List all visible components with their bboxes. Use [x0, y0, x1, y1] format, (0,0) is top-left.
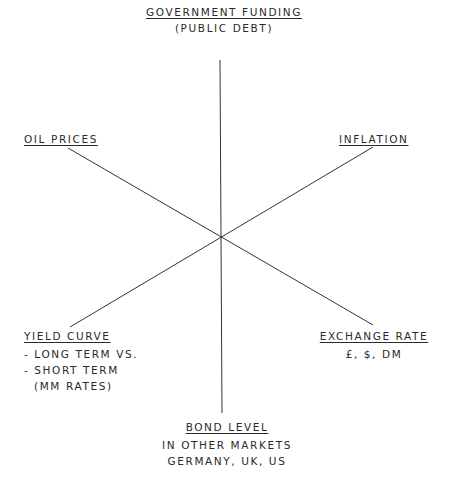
factor-detail: GERMANY, UK, US: [162, 453, 292, 469]
factor-inflation: INFLATION: [339, 131, 408, 147]
factor-detail: (MM RATES): [24, 378, 138, 394]
factor-bond-level: BOND LEVEL IN OTHER MARKETS GERMANY, UK,…: [162, 419, 292, 469]
factor-exchange-rate: EXCHANGE RATE £, $, DM: [320, 328, 429, 362]
factor-detail: - SHORT TERM: [24, 362, 138, 378]
factor-title: OIL PRICES: [24, 131, 98, 147]
factor-oil-prices: OIL PRICES: [24, 131, 98, 147]
factor-detail: (PUBLIC DEBT): [146, 20, 302, 36]
factor-detail: - LONG TERM VS.: [24, 346, 138, 362]
factor-title: INFLATION: [339, 131, 408, 147]
factor-detail: £, $, DM: [320, 346, 429, 362]
factor-diagram-lines: [0, 0, 451, 491]
factor-yield-curve: YIELD CURVE - LONG TERM VS. - SHORT TERM…: [24, 328, 138, 394]
factor-title: GOVERNMENT FUNDING: [146, 4, 302, 20]
factor-government-funding: GOVERNMENT FUNDING (PUBLIC DEBT): [146, 4, 302, 36]
factor-detail: IN OTHER MARKETS: [162, 437, 292, 453]
factor-title: EXCHANGE RATE: [320, 328, 429, 344]
factor-title: YIELD CURVE: [24, 328, 138, 344]
factor-title: BOND LEVEL: [162, 419, 292, 435]
